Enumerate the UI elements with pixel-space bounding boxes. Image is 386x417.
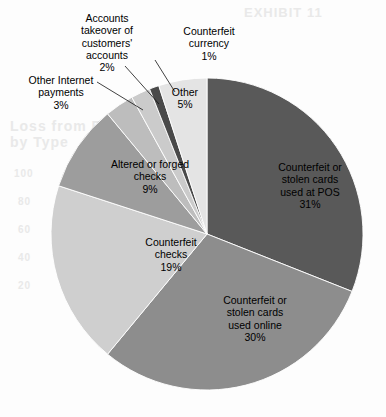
pie-slice-label: Accounts takeover of customers' accounts… (61, 12, 153, 73)
pie-slice-label-value: 19% (128, 261, 214, 273)
pie-slice-label-value: 31% (264, 198, 356, 210)
pie-slice-label: Other Internet payments3% (12, 74, 110, 111)
pie-slice-label-value: 30% (206, 331, 304, 343)
pie-slice-label: Counterfeit or stolen cards used at POS3… (264, 161, 356, 210)
pie-slice-label-value: 1% (163, 50, 255, 62)
pie-slice-label-value: 2% (61, 61, 153, 73)
pie-slice-label: Altered or forged checks9% (92, 158, 208, 195)
pie-slice-label-value: 5% (156, 98, 214, 110)
pie-slice-label-text: Altered or forged checks (92, 158, 208, 183)
pie-slice-label: Counterfeit checks19% (128, 236, 214, 273)
pie-slice-label-text: Counterfeit checks (128, 236, 214, 261)
pie-slice-label-value: 9% (92, 183, 208, 195)
pie-slice-label-text: Counterfeit or stolen cards used at POS (264, 161, 356, 198)
pie-slice-label-text: Other (156, 86, 214, 98)
pie-slice-label: Counterfeit currency1% (163, 25, 255, 62)
pie-slice-label: Counterfeit or stolen cards used online3… (206, 294, 304, 343)
pie-slice-label-value: 3% (12, 99, 110, 111)
pie-slices-group (51, 78, 363, 390)
pie-slice-label: Other5% (156, 86, 214, 111)
pie-slice-label-text: Other Internet payments (12, 74, 110, 99)
pie-slice-label-text: Accounts takeover of customers' accounts (61, 12, 153, 61)
pie-slice-label-text: Counterfeit currency (163, 25, 255, 50)
pie-slice-label-text: Counterfeit or stolen cards used online (206, 294, 304, 331)
pie-chart-figure: EXHIBIT 11Loss from Fraudby Type10080604… (0, 0, 386, 417)
